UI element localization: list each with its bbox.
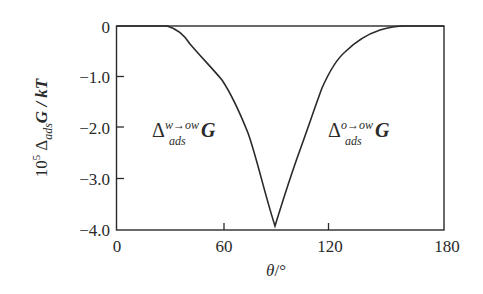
y-tick-label: −3.0 xyxy=(79,170,110,189)
y-tick-label: 0 xyxy=(102,18,111,37)
y-axis-ticks xyxy=(117,77,125,179)
y-axis-title: 105ΔadsG / kT xyxy=(30,78,55,177)
x-axis-title: θ/° xyxy=(266,261,286,280)
chart: 0 −1.0 −2.0 −3.0 −4.0 0 60 120 180 θ/° 1… xyxy=(0,0,483,294)
y-axis-tick-labels: 0 −1.0 −2.0 −3.0 −4.0 xyxy=(79,18,110,240)
y-tick-label: −4.0 xyxy=(79,221,110,240)
y-tick-label: −1.0 xyxy=(79,68,110,87)
x-tick-label: 120 xyxy=(317,237,343,256)
annotation-left: Δw→owG ads xyxy=(152,118,216,148)
svg-text:105ΔadsG / kT: 105ΔadsG / kT xyxy=(30,78,55,177)
y-tick-label: −2.0 xyxy=(79,119,110,138)
svg-text:ads: ads xyxy=(169,134,186,148)
x-tick-label: 60 xyxy=(216,237,233,256)
annotation-right: Δo→owG ads xyxy=(328,118,390,148)
svg-text:ads: ads xyxy=(345,134,362,148)
x-axis-tick-labels: 0 60 120 180 xyxy=(113,237,460,256)
x-tick-label: 180 xyxy=(434,237,460,256)
x-tick-label: 0 xyxy=(113,237,122,256)
